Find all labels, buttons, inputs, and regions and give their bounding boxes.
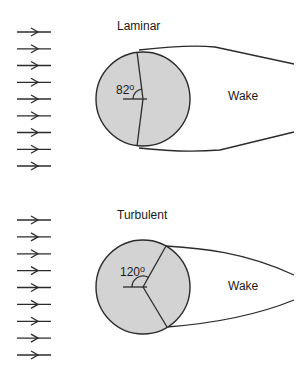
turbulent-title: Turbulent (117, 208, 168, 222)
flow-arrow-icon (17, 95, 51, 103)
laminar-angle-value: 82 (116, 83, 130, 97)
flow-arrow-icon (17, 351, 51, 359)
flow-arrow-icon (17, 129, 51, 137)
laminar-title: Laminar (117, 19, 160, 33)
flow-arrow-icon (17, 145, 51, 153)
flow-arrow-icon (17, 62, 51, 70)
flow-arrow-icon (17, 112, 51, 120)
laminar-wake-label: Wake (228, 89, 259, 103)
flow-arrow-icon (17, 317, 51, 325)
flow-arrow-icon (17, 334, 51, 342)
laminar-flow-arrows (17, 28, 51, 170)
turbulent-flow-arrows (17, 216, 51, 359)
turbulent-angle-degree: o (140, 264, 145, 274)
turbulent-wake-label: Wake (228, 279, 259, 293)
flow-arrow-icon (17, 78, 51, 86)
flow-arrow-icon (17, 267, 51, 275)
flow-arrow-icon (17, 284, 51, 292)
flow-arrow-icon (17, 300, 51, 308)
flow-arrow-icon (17, 28, 51, 36)
flow-arrow-icon (17, 233, 51, 241)
flow-arrow-icon (17, 162, 51, 170)
laminar-angle-degree: o (129, 82, 134, 92)
flow-arrow-icon (17, 216, 51, 224)
flow-arrow-icon (17, 45, 51, 53)
turbulent-angle-value: 120 (120, 265, 140, 279)
laminar-panel: Laminar 82o Wake (17, 19, 294, 170)
flow-arrow-icon (17, 250, 51, 258)
turbulent-panel: Turbulent 120o Wake (17, 208, 294, 359)
flow-separation-diagram: Laminar 82o Wake Turbulent (0, 0, 308, 384)
